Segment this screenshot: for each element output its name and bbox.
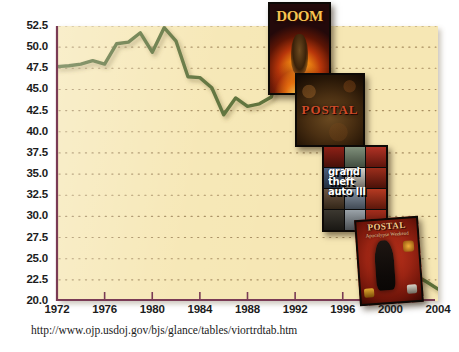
boxart-gta3-title: grand theft auto III	[328, 167, 385, 198]
x-axis-tick-label: 2000	[378, 304, 403, 316]
y-axis-tick-label: 27.5	[26, 232, 48, 244]
x-axis-tick-label: 1980	[140, 304, 165, 316]
boxart-doom-title: DOOM	[268, 9, 331, 24]
y-axis-tick-label: 22.5	[26, 274, 48, 286]
chart-figure: 52.550.047.545.042.540.037.535.032.530.0…	[0, 0, 459, 352]
x-axis-tick-label: 1992	[283, 304, 308, 316]
x-axis-tick-label: 2004	[426, 304, 451, 316]
y-axis-tick-label: 52.5	[26, 20, 48, 32]
boxart-postal2-subtitle: Apocalypse Weekend	[355, 230, 419, 239]
boxart-gta3-line3: auto III	[328, 187, 385, 197]
x-axis-tick-label: 1988	[235, 304, 260, 316]
x-axis-tick-label: 1984	[187, 304, 212, 316]
y-axis-tick-label: 35.0	[26, 168, 48, 180]
postal2-icon-a	[402, 240, 414, 252]
boxart-postal2: POSTAL Apocalypse Weekend	[354, 216, 424, 306]
x-axis-tick-label: 1976	[92, 304, 117, 316]
x-axis-tick-label: 1972	[45, 304, 70, 316]
y-axis-tick-label: 50.0	[26, 41, 48, 53]
y-axis-tick-labels: 52.550.047.545.042.540.037.535.032.530.0…	[0, 0, 52, 352]
y-axis-tick-label: 45.0	[26, 84, 48, 96]
y-axis-tick-label: 32.5	[26, 189, 48, 201]
x-axis-tick-labels: 197219761980198419881992199620002004	[0, 302, 459, 320]
y-axis-tick-label: 37.5	[26, 147, 48, 159]
postal2-icon-c	[364, 288, 374, 298]
postal2-figure-art	[374, 240, 397, 291]
doom-figure-art	[291, 34, 309, 75]
source-url: http://www.ojp.usdoj.gov/bjs/glance/tabl…	[31, 324, 297, 336]
y-axis-tick-label: 42.5	[26, 105, 48, 117]
boxart-postal: POSTAL	[295, 73, 365, 147]
postal-texture-art	[295, 73, 365, 147]
y-axis-tick-label: 25.0	[26, 253, 48, 265]
y-axis-tick-label: 47.5	[26, 63, 48, 75]
y-axis-tick-label: 30.0	[26, 211, 48, 223]
x-axis-tick-label: 1996	[330, 304, 355, 316]
y-axis-tick-label: 40.0	[26, 126, 48, 138]
postal2-icon-b	[407, 284, 417, 294]
